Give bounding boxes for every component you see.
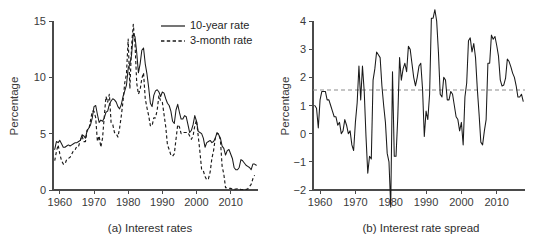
y-tick-group: −2−101234 [293, 15, 313, 196]
panel-b-svg: −2−101234 196019701980199020002010 Perce… [271, 0, 541, 243]
series-line-10-year-rate [55, 33, 257, 169]
panel-b-axes: −2−101234 196019701980199020002010 [293, 15, 525, 208]
x-tick-group: 196019701980199020002010 [48, 190, 243, 208]
x-tick-label: 1980 [116, 196, 140, 208]
y-tick-label: 2 [300, 71, 306, 83]
x-tick-group: 196019701980199020002010 [308, 190, 509, 208]
chart-panel-b: −2−101234 196019701980199020002010 Perce… [271, 0, 541, 243]
legend-label-3-month-rate: 3-month rate [190, 34, 252, 46]
x-tick-label: 1970 [82, 196, 106, 208]
x-tick-label: 1960 [48, 196, 72, 208]
y-tick-group: 051015 [34, 15, 53, 196]
y-tick-label: 0 [300, 128, 306, 140]
x-tick-label: 1990 [414, 196, 438, 208]
series-line-interest-rate-spread [315, 10, 523, 207]
legend-label-10-year-rate: 10-year rate [190, 19, 249, 31]
y-tick-label: 4 [300, 15, 306, 27]
y-axis-title: Percentage [8, 77, 20, 136]
figure-container: 051015 196019701980199020002010 10-year … [0, 0, 541, 243]
y-tick-label: −2 [293, 184, 306, 196]
y-tick-label: 1 [300, 100, 306, 112]
y-axis-title: Percentage [279, 77, 291, 136]
x-tick-label: 2000 [449, 196, 473, 208]
y-tick-label: 15 [34, 15, 46, 27]
x-tick-label: 1970 [343, 196, 367, 208]
legend: 10-year rate 3-month rate [161, 19, 252, 46]
panel-caption-a: (a) Interest rates [108, 222, 193, 234]
series-line-3-month-rate [55, 24, 255, 189]
x-tick-label: 2010 [484, 196, 508, 208]
x-tick-label: 2010 [218, 196, 242, 208]
x-tick-label: 1990 [150, 196, 174, 208]
panel-caption-b: (b) Interest rate spread [363, 222, 480, 234]
panel-b-series [315, 10, 523, 207]
y-tick-label: 0 [40, 184, 46, 196]
panel-a-svg: 051015 196019701980199020002010 10-year … [0, 0, 271, 243]
chart-panel-a: 051015 196019701980199020002010 10-year … [0, 0, 271, 243]
x-tick-label: 2000 [184, 196, 208, 208]
x-tick-label: 1960 [308, 196, 332, 208]
y-tick-label: −1 [293, 156, 306, 168]
y-tick-label: 5 [40, 128, 46, 140]
y-tick-label: 3 [300, 43, 306, 55]
y-tick-label: 10 [34, 71, 46, 83]
panel-a-series [55, 24, 257, 189]
